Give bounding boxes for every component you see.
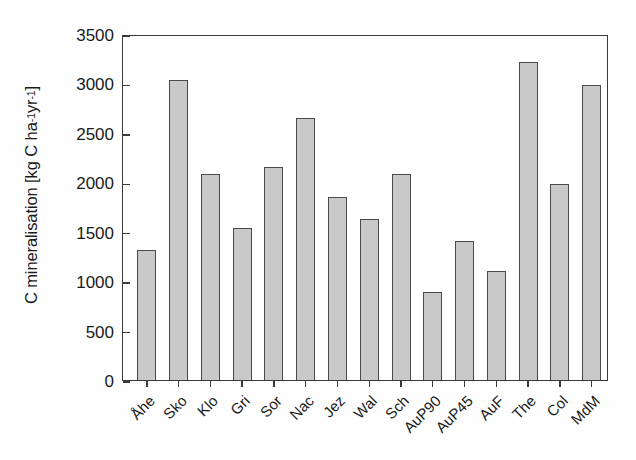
x-tick-mark — [432, 380, 433, 387]
x-tick-mark — [305, 380, 306, 387]
x-tick-mark — [591, 380, 592, 387]
x-tick-mark — [337, 380, 338, 387]
x-tick-mark — [559, 380, 560, 387]
y-tick-mark — [123, 184, 130, 185]
bar — [360, 219, 379, 380]
y-axis-title-suffix: ] — [22, 86, 41, 90]
x-tick-mark — [496, 380, 497, 387]
x-tick-mark — [210, 380, 211, 387]
x-tick-mark — [241, 380, 242, 387]
y-tick-label: 500 — [86, 322, 114, 344]
bar — [392, 174, 411, 380]
x-tick-mark — [400, 380, 401, 387]
y-tick-mark — [123, 35, 130, 36]
bar — [487, 271, 506, 380]
plot-area: 0500100015002000250030003500 — [122, 35, 608, 381]
bar — [519, 62, 538, 380]
bar — [137, 250, 156, 380]
y-axis-title-prefix: C mineralisation [kg C ha — [22, 122, 41, 304]
bar — [201, 174, 220, 380]
bar — [423, 292, 442, 380]
y-tick-label: 3000 — [76, 74, 114, 96]
y-tick-label: 1000 — [76, 272, 114, 294]
x-tick-mark — [273, 380, 274, 387]
y-tick-label: 3500 — [76, 25, 114, 47]
x-tick-mark — [178, 380, 179, 387]
y-axis-title: C mineralisation [kg C ha-1 yr-1] — [14, 0, 48, 390]
y-tick-mark — [123, 332, 130, 333]
bar — [455, 241, 474, 380]
x-tick-mark — [464, 380, 465, 387]
y-tick-label: 2500 — [76, 124, 114, 146]
bar — [296, 118, 315, 380]
y-tick-mark — [123, 381, 130, 382]
bar — [233, 228, 252, 380]
bar — [169, 80, 188, 380]
x-tick-mark — [369, 380, 370, 387]
bar — [582, 85, 601, 380]
x-tick-mark — [146, 380, 147, 387]
y-tick-label: 0 — [105, 371, 114, 393]
y-axis-title-mid: yr — [22, 100, 41, 114]
x-tick-mark — [527, 380, 528, 387]
y-tick-label: 1500 — [76, 223, 114, 245]
y-tick-mark — [123, 282, 130, 283]
y-tick-mark — [123, 85, 130, 86]
bar — [550, 184, 569, 380]
bar — [328, 197, 347, 380]
bar — [264, 167, 283, 380]
bar-chart-figure: C mineralisation [kg C ha-1 yr-1] 050010… — [0, 0, 636, 460]
y-tick-label: 2000 — [76, 173, 114, 195]
y-tick-mark — [123, 134, 130, 135]
y-tick-mark — [123, 233, 130, 234]
